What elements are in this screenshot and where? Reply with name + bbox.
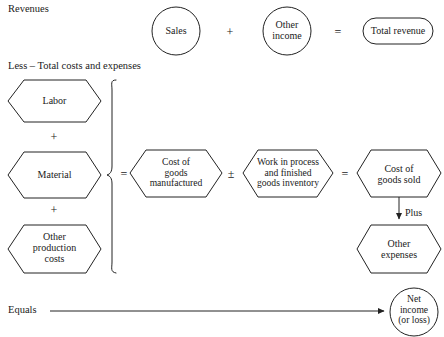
diagram-canvas: Revenues Less – Total costs and expenses… bbox=[0, 0, 444, 337]
cost-of-goods-sold-label: Cost of goods sold bbox=[357, 163, 441, 185]
section-label-revenues: Revenues bbox=[8, 3, 49, 14]
cost-of-goods-manufactured-label: Cost of goods manufactured bbox=[134, 157, 218, 189]
work-in-process-label: Work in process and finished goods inven… bbox=[243, 157, 333, 189]
grouping-brace bbox=[107, 80, 116, 273]
other-expenses-label: Other expenses bbox=[357, 238, 441, 260]
operator-revenue-plus: + bbox=[222, 25, 238, 40]
material-label: Material bbox=[8, 169, 101, 180]
section-label-equals: Equals bbox=[8, 304, 37, 315]
labor-label: Labor bbox=[8, 95, 101, 106]
plus-note-label: Plus bbox=[405, 207, 422, 218]
section-label-less-total-costs: Less – Total costs and expenses bbox=[8, 60, 141, 71]
operator-plus-minus: ± bbox=[224, 167, 238, 182]
operator-brace-equals: = bbox=[117, 167, 131, 182]
net-income-label: Net income (or loss) bbox=[388, 294, 440, 326]
operator-cogs-equals: = bbox=[338, 167, 352, 182]
total-revenue-label: Total revenue bbox=[363, 25, 433, 36]
operator-revenue-equals: = bbox=[330, 25, 346, 40]
sales-label: Sales bbox=[152, 25, 200, 36]
other-income-label: Other income bbox=[263, 19, 311, 41]
operator-stack-plus-2: + bbox=[46, 203, 62, 218]
other-production-costs-label: Other production costs bbox=[8, 231, 101, 265]
operator-stack-plus-1: + bbox=[46, 130, 62, 145]
